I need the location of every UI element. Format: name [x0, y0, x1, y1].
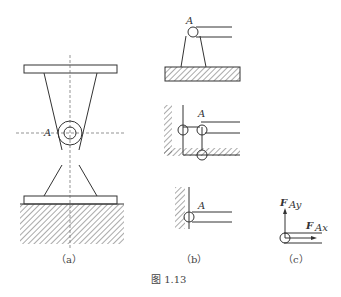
- bottom-plate: [24, 196, 117, 204]
- figure-canvas: A （a） A A A （b）: [0, 0, 341, 297]
- caption-c: （c）: [283, 254, 309, 265]
- figure-caption: 图 1.13: [151, 274, 186, 285]
- force-ay-sub: Ay: [288, 199, 302, 210]
- caption-b: （b）: [181, 254, 207, 265]
- force-ay-label: F: [279, 197, 288, 208]
- point-label-b2: A: [197, 108, 205, 119]
- point-label-a: A: [43, 127, 51, 138]
- force-ax-sub: Ax: [314, 222, 328, 233]
- subfigure-c: F Ay F Ax （c）: [279, 197, 328, 265]
- ground-hatch: [20, 204, 124, 244]
- point-label-b1: A: [185, 15, 193, 26]
- force-ax-label: F: [305, 220, 314, 231]
- caption-a: （a）: [56, 254, 82, 265]
- subfigure-a: A （a）: [16, 55, 126, 265]
- top-plate: [24, 65, 117, 73]
- subfigure-b: A A A （b）: [164, 15, 240, 265]
- point-label-b3: A: [197, 200, 205, 211]
